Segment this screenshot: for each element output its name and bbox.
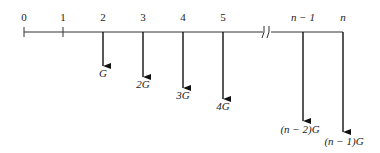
gradient-cash-flow-diagram: 0 1 2 3 4 5 n − 1 n G 2G 3G 4G (n − 2)G … bbox=[0, 0, 380, 153]
period-label-3: 3 bbox=[140, 11, 146, 23]
period-label-n: n bbox=[340, 11, 346, 23]
period-label-0: 0 bbox=[21, 11, 27, 23]
period-labels: 0 1 2 3 4 5 n − 1 n bbox=[21, 11, 346, 23]
axis-break-icon bbox=[262, 26, 269, 38]
flow-label-2G: 2G bbox=[136, 78, 150, 90]
period-label-2: 2 bbox=[100, 11, 106, 23]
flow-labels: G 2G 3G 4G (n − 2)G (n − 1)G bbox=[99, 67, 364, 148]
period-label-1: 1 bbox=[60, 11, 66, 23]
period-label-5: 5 bbox=[220, 11, 226, 23]
flow-label-n-minus-2-G: (n − 2)G bbox=[280, 123, 319, 136]
flow-label-4G: 4G bbox=[216, 100, 230, 112]
flow-label-n-minus-1-G: (n − 1)G bbox=[324, 135, 363, 148]
flow-label-3G: 3G bbox=[175, 89, 190, 101]
period-label-n-minus-1: n − 1 bbox=[291, 11, 315, 23]
flow-label-G: G bbox=[99, 67, 107, 79]
period-label-4: 4 bbox=[180, 11, 186, 23]
